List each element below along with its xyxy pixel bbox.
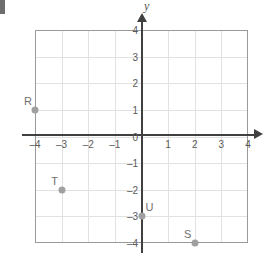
data-point-s — [191, 240, 198, 247]
y-tick-label: 3 — [118, 51, 138, 62]
x-tick-label: 3 — [219, 139, 225, 150]
x-tick-label: 4 — [245, 139, 251, 150]
data-point-label-t: T — [51, 175, 58, 187]
data-point-label-u: U — [146, 201, 154, 213]
data-point-r — [32, 106, 39, 113]
y-axis-arrowhead-icon — [137, 13, 147, 22]
y-axis-title: y — [144, 0, 149, 14]
x-axis-line — [22, 134, 256, 136]
data-point-label-r: R — [24, 95, 32, 107]
x-tick-label: –4 — [29, 139, 40, 150]
y-tick-label: –1 — [118, 158, 138, 169]
data-point-t — [58, 186, 65, 193]
y-tick-label: 2 — [118, 78, 138, 89]
x-axis-arrowhead-icon — [254, 129, 263, 139]
y-tick-label: –2 — [118, 184, 138, 195]
data-point-label-s: S — [184, 228, 191, 240]
y-tick-label: –4 — [118, 238, 138, 249]
data-point-u — [138, 213, 145, 220]
x-tick-label: 1 — [165, 139, 171, 150]
corner-mark — [0, 0, 5, 14]
y-tick-label: –3 — [118, 211, 138, 222]
y-tick-label: 1 — [118, 104, 138, 115]
x-tick-label: –3 — [56, 139, 67, 150]
coordinate-plane-figure: y –4–3–2–11234–4–3–2–101234 RTUS — [0, 0, 269, 263]
x-tick-label: –2 — [83, 139, 94, 150]
y-tick-label: 4 — [118, 25, 138, 36]
x-tick-label: 2 — [192, 139, 198, 150]
origin-label: 0 — [118, 131, 138, 142]
